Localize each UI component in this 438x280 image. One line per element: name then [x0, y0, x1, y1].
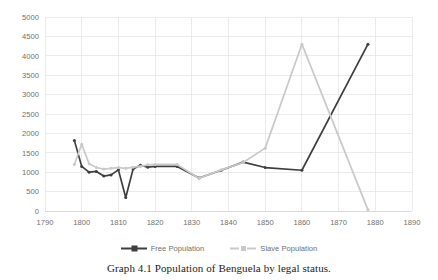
legend-item-free-population[interactable]: Free Population [121, 244, 205, 253]
x-tick-label: 1800 [73, 218, 90, 227]
data-point-marker [300, 43, 303, 46]
x-tick-label: 1850 [257, 218, 274, 227]
x-tick-label: 1830 [183, 218, 200, 227]
data-point-marker [264, 147, 267, 150]
y-tick-label: 2000 [22, 129, 39, 138]
data-point-marker [264, 166, 267, 169]
line-marker-icon [121, 244, 147, 253]
data-point-marker [110, 173, 113, 176]
x-tick-label: 1810 [110, 218, 127, 227]
data-point-marker [139, 165, 142, 168]
y-tick-label: 0 [35, 207, 39, 216]
x-tick-label: 1890 [404, 218, 421, 227]
data-point-marker [117, 166, 120, 169]
data-point-marker [242, 161, 245, 164]
y-axis-tick-labels: 0500100015002000250030003500400045005000 [22, 13, 39, 216]
data-point-marker [102, 168, 105, 171]
data-point-marker [124, 196, 127, 199]
y-tick-label: 4500 [22, 32, 39, 41]
x-tick-label: 1870 [330, 218, 347, 227]
y-tick-label: 500 [26, 187, 39, 196]
data-point-marker [366, 208, 369, 211]
chart-legend: Free Population Slave Population [0, 244, 438, 253]
data-point-marker [300, 169, 303, 172]
y-tick-label: 1000 [22, 168, 39, 177]
data-point-marker [220, 168, 223, 171]
data-point-marker [154, 163, 157, 166]
x-tick-label: 1820 [147, 218, 164, 227]
y-tick-label: 5000 [22, 13, 39, 22]
series-layer [73, 43, 370, 212]
figure-caption: Graph 4.1 Population of Benguela by lega… [0, 262, 438, 274]
y-tick-label: 3000 [22, 90, 39, 99]
data-point-marker [88, 162, 91, 165]
data-point-marker [80, 165, 83, 168]
y-tick-label: 1500 [22, 149, 39, 158]
line-chart: 0500100015002000250030003500400045005000… [0, 0, 438, 238]
y-tick-label: 2500 [22, 110, 39, 119]
x-tick-label: 1880 [367, 218, 384, 227]
data-point-marker [146, 163, 149, 166]
figure-container: 0500100015002000250030003500400045005000… [0, 0, 438, 280]
data-point-marker [176, 163, 179, 166]
data-point-marker [366, 43, 369, 46]
chart-plot-area: 0500100015002000250030003500400045005000… [0, 0, 438, 238]
data-point-marker [198, 177, 201, 180]
y-tick-label: 4000 [22, 52, 39, 61]
x-tick-label: 1860 [293, 218, 310, 227]
data-point-marker [80, 143, 83, 146]
data-point-marker [88, 171, 91, 174]
data-point-marker [110, 167, 113, 170]
data-point-marker [102, 175, 105, 178]
x-tick-label: 1790 [37, 218, 54, 227]
line-marker-icon [230, 244, 256, 253]
legend-label-slave-population: Slave Population [260, 244, 317, 253]
legend-item-slave-population[interactable]: Slave Population [230, 244, 317, 253]
data-point-marker [95, 166, 98, 169]
data-point-marker [95, 170, 98, 173]
data-point-marker [132, 166, 135, 169]
y-tick-label: 3500 [22, 71, 39, 80]
data-point-marker [124, 167, 127, 170]
data-point-marker [73, 139, 76, 142]
x-tick-label: 1840 [220, 218, 237, 227]
legend-label-free-population: Free Population [151, 244, 205, 253]
x-axis-tick-labels: 1790180018101820183018401850186018701880… [37, 218, 421, 227]
data-point-marker [73, 163, 76, 166]
